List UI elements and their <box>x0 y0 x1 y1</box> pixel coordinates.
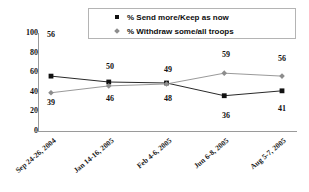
y-axis-tick: 80 <box>0 49 38 57</box>
data-value-label: 56 <box>47 31 55 39</box>
legend-item-label: % Send more/Keep as now <box>127 13 229 22</box>
data-value-label: 49 <box>164 66 172 74</box>
data-value-label: 56 <box>278 55 286 63</box>
data-value-label: 46 <box>106 95 114 103</box>
y-axis-tick: 40 <box>0 88 38 96</box>
square-marker-icon <box>111 15 123 19</box>
series-lines <box>38 33 297 131</box>
y-axis-tick: 60 <box>0 68 38 76</box>
data-value-label: 50 <box>106 63 114 71</box>
x-axis-line <box>38 131 297 132</box>
y-tick-mark <box>34 131 38 132</box>
x-axis-label-text: Jan 14-16, 2005 <box>72 136 116 175</box>
x-axis-label-text: Sep 24-26, 2004 <box>14 136 58 175</box>
data-value-label: 48 <box>164 95 172 103</box>
plot-area <box>38 33 297 131</box>
data-value-label: 39 <box>47 99 55 107</box>
data-value-label: 36 <box>222 112 230 120</box>
y-axis-tick: 20 <box>0 107 38 115</box>
data-value-label: 41 <box>278 105 286 113</box>
data-value-label: 59 <box>222 51 230 59</box>
y-axis-tick: 0 <box>0 127 38 135</box>
x-axis-label-text: Jun 6-8, 2005 <box>192 136 231 170</box>
y-axis-tick: 100 <box>0 29 38 37</box>
x-axis-label-text: Aug 5-7, 2005 <box>248 136 287 171</box>
legend-item-send-more: % Send more/Keep as now <box>111 11 229 23</box>
chart-container: % Send more/Keep as now % Withdraw some/… <box>0 0 309 192</box>
x-axis-label-text: Feb 4-6, 2005 <box>135 136 174 170</box>
